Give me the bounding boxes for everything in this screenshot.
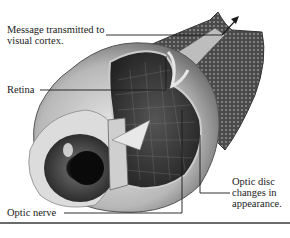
eye-diagram: Message transmitted to visual cortex. Re… xyxy=(0,0,290,238)
label-optic-disc-line3: appearance. xyxy=(232,198,282,209)
label-optic-disc-line2: changes in xyxy=(232,187,282,198)
label-optic-disc: Optic disc changes in appearance. xyxy=(232,176,282,209)
pupil xyxy=(70,151,104,185)
label-message-line2: visual cortex. xyxy=(7,35,104,46)
eye-highlight xyxy=(63,143,73,157)
label-optic-nerve: Optic nerve xyxy=(7,207,56,218)
label-message: Message transmitted to visual cortex. xyxy=(7,24,104,46)
label-message-line1: Message transmitted to xyxy=(7,24,104,35)
bottom-divider xyxy=(0,222,290,224)
label-optic-disc-line1: Optic disc xyxy=(232,176,282,187)
label-retina: Retina xyxy=(7,84,34,95)
lens-section xyxy=(108,118,128,190)
